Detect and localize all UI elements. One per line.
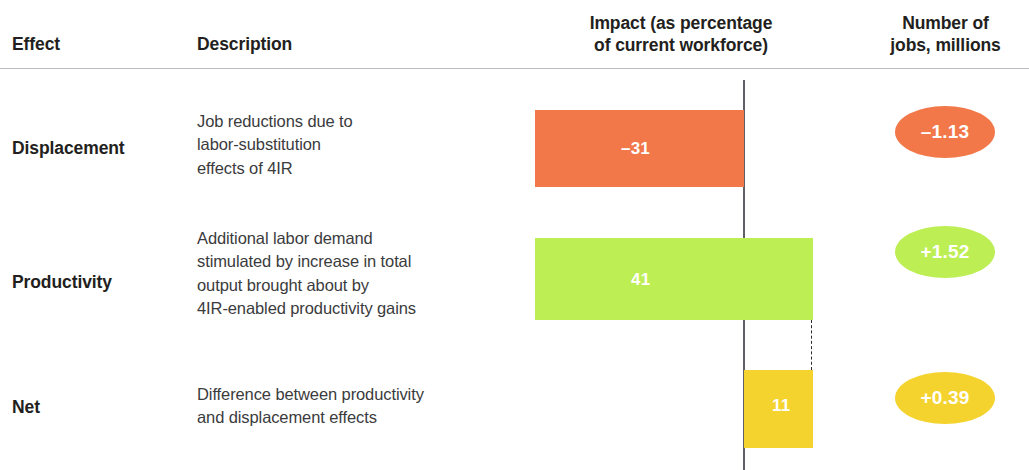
chart-figure: Effect Description Impact (as percentage… [0,0,1029,470]
row-effect-productivity: Productivity [12,272,112,293]
badge-label: +0.39 [920,387,969,409]
desc-line: 4IR-enabled productivity gains [197,297,416,320]
column-header-impact: Impact (as percentage of current workfor… [556,12,806,57]
desc-line: and displacement effects [197,406,424,429]
badge-label: +1.52 [920,241,969,263]
row-description-displacement: Job reductions due to labor-substitution… [197,110,353,180]
badge-jobs-productivity: +1.52 [895,226,995,278]
column-header-description: Description [197,33,292,55]
desc-line: stimulated by increase in total [197,250,416,273]
dashed-connector-line [811,320,812,370]
column-header-number-line2: jobs, millions [862,34,1029,56]
desc-line: effects of 4IR [197,157,353,180]
desc-line: labor-substitution [197,133,353,156]
row-description-net: Difference between productivity and disp… [197,383,424,430]
row-effect-net: Net [12,397,40,418]
row-description-productivity: Additional labor demand stimulated by in… [197,227,416,321]
bar-value-productivity: 41 [631,270,650,290]
desc-line: output brought about by [197,274,416,297]
bar-productivity [535,238,813,320]
bar-value-net: 11 [772,396,790,416]
header-divider-rule [0,68,1029,69]
column-header-number-line1: Number of [862,12,1029,34]
badge-label: –1.13 [921,121,970,143]
desc-line: Job reductions due to [197,110,353,133]
column-header-number-of-jobs: Number of jobs, millions [862,12,1029,57]
badge-jobs-net: +0.39 [895,372,995,424]
column-header-impact-line2: of current workforce) [556,34,806,56]
row-effect-displacement: Displacement [12,138,125,159]
desc-line: Difference between productivity [197,383,424,406]
desc-line: Additional labor demand [197,227,416,250]
column-header-effect: Effect [12,33,60,55]
column-header-impact-line1: Impact (as percentage [556,12,806,34]
bar-value-displacement: –31 [621,139,650,159]
badge-jobs-displacement: –1.13 [895,106,995,158]
